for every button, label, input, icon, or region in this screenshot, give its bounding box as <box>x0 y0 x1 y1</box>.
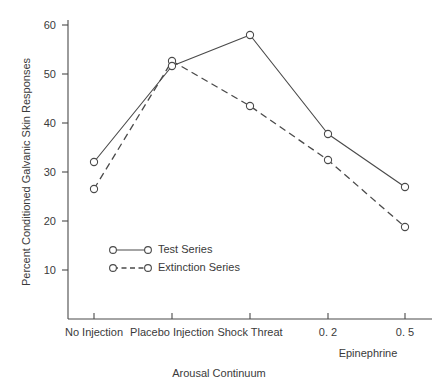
x-tick-label: 0. 2 <box>319 326 337 338</box>
x-tick-label: Placebo Injection <box>130 326 214 338</box>
test-series-line <box>94 35 405 187</box>
x-tick-label: No Injection <box>65 326 123 338</box>
data-point <box>168 62 175 69</box>
legend-item-test-series: Test Series <box>110 243 213 255</box>
data-point <box>324 156 331 163</box>
series-extinction-series <box>90 57 408 230</box>
line-chart: 60 50 40 30 20 10 Percent Conditioned Ga… <box>0 0 438 388</box>
series-test-series <box>90 31 408 190</box>
y-tick-label: 50 <box>44 68 56 80</box>
data-point <box>401 183 408 190</box>
legend-marker <box>145 265 152 272</box>
data-point <box>90 158 97 165</box>
chart-legend: Test Series Extinction Series <box>110 243 241 273</box>
chart-figure: 60 50 40 30 20 10 Percent Conditioned Ga… <box>0 0 438 388</box>
legend-item-extinction-series: Extinction Series <box>110 261 241 273</box>
x-axis-ticks <box>94 313 405 319</box>
y-tick-label: 40 <box>44 117 56 129</box>
extinction-series-line <box>94 61 405 227</box>
data-point <box>401 223 408 230</box>
y-axis-tick-labels: 60 50 40 30 20 10 <box>44 19 56 276</box>
legend-label: Test Series <box>158 243 213 255</box>
y-axis-ticks <box>62 25 68 270</box>
data-point <box>90 185 97 192</box>
y-tick-label: 30 <box>44 166 56 178</box>
x-axis-title: Arousal Continuum <box>172 367 266 379</box>
epinephrine-group-label: Epinephrine <box>339 347 398 359</box>
legend-marker <box>145 247 152 254</box>
x-tick-label: Shock Threat <box>217 326 282 338</box>
legend-label: Extinction Series <box>158 261 240 273</box>
y-tick-label: 60 <box>44 19 56 31</box>
data-point <box>246 31 253 38</box>
legend-marker <box>110 265 117 272</box>
y-axis-title: Percent Conditioned Galvanic Skin Respon… <box>20 57 32 286</box>
data-point <box>324 130 331 137</box>
legend-marker <box>110 247 117 254</box>
x-tick-label: 0. 5 <box>396 326 414 338</box>
x-axis-tick-labels: No Injection Placebo Injection Shock Thr… <box>65 326 414 338</box>
y-tick-label: 10 <box>44 264 56 276</box>
data-point <box>246 102 253 109</box>
y-tick-label: 20 <box>44 215 56 227</box>
